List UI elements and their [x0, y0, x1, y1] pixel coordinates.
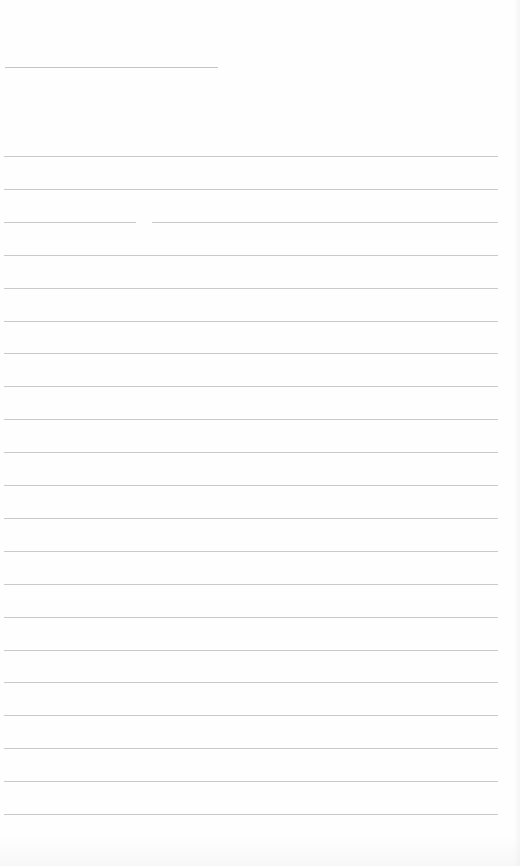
ruled-line [4, 156, 498, 157]
lined-paper-page [0, 0, 520, 866]
ruled-line [4, 781, 498, 782]
ruled-line [4, 419, 498, 420]
ruled-line [4, 485, 498, 486]
ruled-line [4, 748, 498, 749]
ruled-line [4, 715, 498, 716]
ruled-line [4, 650, 498, 651]
ruled-line [4, 584, 498, 585]
page-edge-shadow [514, 0, 520, 866]
ruled-line [4, 682, 498, 683]
ruled-line [4, 518, 498, 519]
ruled-line [4, 617, 498, 618]
page-bottom-shadow [0, 836, 520, 866]
ruled-line [4, 551, 498, 552]
ruled-line [4, 386, 498, 387]
ruled-line [4, 288, 498, 289]
ruled-line [4, 321, 498, 322]
ruled-line [4, 222, 498, 223]
header-line [5, 67, 218, 68]
ruled-line [4, 255, 498, 256]
ruled-line [4, 353, 498, 354]
ruled-line [4, 189, 498, 190]
ruled-line [4, 452, 498, 453]
line-break-gap [136, 221, 152, 224]
ruled-line [4, 814, 498, 815]
